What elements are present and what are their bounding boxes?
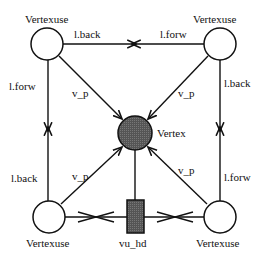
edge-bl-vp xyxy=(61,147,122,204)
label-edge-right-lforw: l.forw xyxy=(224,171,251,183)
label-edge-br-vp: v_p xyxy=(178,164,195,176)
label-edge-top-lforw: l.forw xyxy=(160,28,187,40)
node-vu-hd xyxy=(127,200,144,233)
label-edge-bl-vp: v_p xyxy=(72,170,89,182)
label-top-left: Vertexuse xyxy=(25,13,68,25)
label-edge-right-lback: l.back xyxy=(224,77,251,89)
label-edge-left-lback: l.back xyxy=(11,172,38,184)
label-edge-tl-vp: v_p xyxy=(72,87,89,99)
vertexuse-diagram: Vertexuse Vertexuse Vertexuse Vertexuse … xyxy=(0,0,269,262)
label-center: Vertex xyxy=(157,127,186,139)
node-vertexuse-top-right xyxy=(204,28,236,60)
edge-tl-vp xyxy=(59,56,122,119)
label-bottom-right: Vertexuse xyxy=(196,237,239,249)
node-vertexuse-bottom-left xyxy=(33,201,65,233)
node-vertexuse-bottom-right xyxy=(204,201,236,233)
node-vertexuse-top-left xyxy=(31,28,63,60)
label-bottom-left: Vertexuse xyxy=(26,237,69,249)
label-top-right: Vertexuse xyxy=(193,13,236,25)
node-vertex-center xyxy=(118,116,152,150)
label-edge-top-lback: l.back xyxy=(74,28,101,40)
label-hd: vu_hd xyxy=(119,237,147,249)
label-edge-tr-vp: v_p xyxy=(178,87,195,99)
label-edge-left-lforw: l.forw xyxy=(9,80,36,92)
